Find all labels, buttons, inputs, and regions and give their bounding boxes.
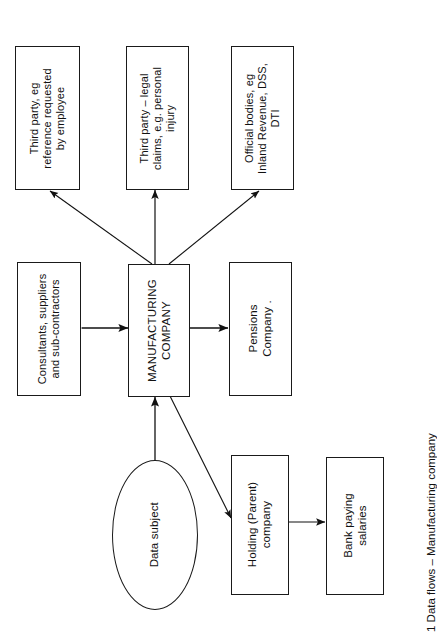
- edge-mfg-to-official-bodies: [169, 191, 259, 264]
- figure-caption: 1 Data flows – Manufacturing company: [425, 433, 437, 632]
- node-data-subject[interactable]: Data subject: [112, 460, 198, 610]
- node-label: Consultants, suppliers and sub-contracto…: [36, 274, 62, 384]
- node-holding-parent-company[interactable]: Holding (Parent) company: [231, 455, 289, 595]
- node-label: Bank paying salaries: [341, 494, 368, 558]
- node-label: Holding (Parent) company: [246, 482, 273, 567]
- node-label: Third party, eg reference requested by e…: [28, 68, 67, 168]
- edge-mfg-to-third-party-reference: [50, 191, 152, 264]
- node-label: Third party – legal claims, e.g. persona…: [138, 67, 177, 170]
- node-label: MANUFACTURING COMPANY: [145, 279, 172, 382]
- node-consultants-suppliers[interactable]: Consultants, suppliers and sub-contracto…: [17, 262, 81, 396]
- node-label: Data subject: [148, 502, 162, 567]
- node-bank-paying-salaries[interactable]: Bank paying salaries: [326, 457, 384, 595]
- node-pensions-company[interactable]: Pensions Company .: [229, 262, 292, 396]
- node-official-bodies[interactable]: Official bodies, eg Inland Revenue, DSS,…: [231, 46, 294, 190]
- node-label: Official bodies, eg Inland Revenue, DSS,…: [243, 63, 282, 174]
- node-manufacturing-company[interactable]: MANUFACTURING COMPANY: [128, 264, 190, 397]
- node-third-party-reference[interactable]: Third party, eg reference requested by e…: [15, 46, 80, 190]
- node-third-party-legal[interactable]: Third party – legal claims, e.g. persona…: [126, 46, 189, 190]
- node-label: Pensions Company .: [247, 301, 274, 358]
